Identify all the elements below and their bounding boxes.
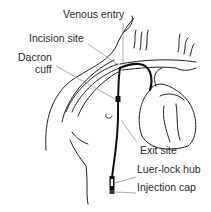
- vein-5: [184, 38, 188, 54]
- heart-detail-3: [176, 104, 180, 140]
- rib-curve-2: [78, 72, 118, 116]
- label-dacron-cuff-line1: Dacron: [18, 52, 52, 63]
- vein-4: [178, 34, 180, 52]
- label-venous-entry: Venous entry: [63, 9, 124, 20]
- torso-arm: [72, 132, 88, 144]
- leader-injection-cap: [115, 192, 136, 193]
- hub-highlight: [111, 179, 113, 186]
- leader-dacron-cuff: [56, 66, 115, 99]
- vein-3: [146, 30, 148, 50]
- vein-2: [140, 32, 142, 50]
- label-luer-lock-hub: Luer-lock hub: [137, 164, 201, 175]
- nipple: [106, 114, 112, 118]
- vein-1: [134, 30, 136, 48]
- label-exit-site: Exit site: [140, 145, 177, 156]
- heart-aorta: [154, 68, 162, 86]
- leader-exit-site: [121, 120, 136, 141]
- heart-detail-1: [160, 94, 184, 100]
- label-dacron-cuff-line2: cuff: [35, 64, 52, 75]
- catheter-tube-tunnel: [112, 68, 120, 178]
- heart-detail-2: [163, 106, 170, 142]
- injection-cap-shape: [110, 190, 115, 194]
- vein-6: [190, 44, 194, 56]
- label-incision-site: Incision site: [29, 33, 84, 44]
- catheter-tube-intravascular: [120, 64, 152, 90]
- catheter-diagram: Venous entry Incision site Dacron cuff E…: [0, 0, 211, 212]
- label-injection-cap: Injection cap: [137, 182, 196, 193]
- clavicle-outer: [66, 64, 118, 112]
- dacron-cuff-marker: [116, 96, 121, 102]
- leader-luer-lock-hub: [115, 177, 136, 183]
- torso-left: [70, 140, 88, 204]
